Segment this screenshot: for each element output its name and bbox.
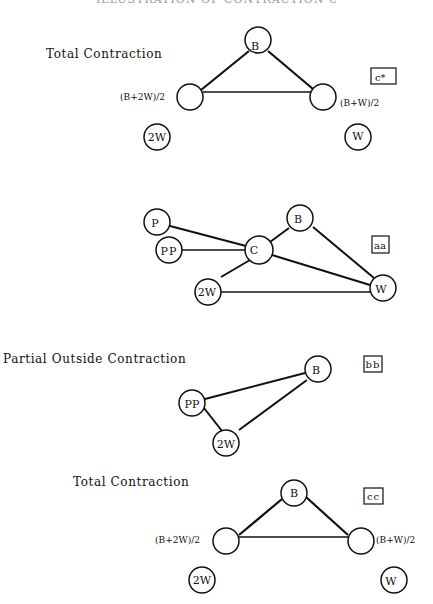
- edge: [201, 51, 249, 90]
- node-label: P: [151, 217, 159, 230]
- edge: [239, 499, 282, 535]
- node-label: PP: [185, 398, 200, 411]
- node-midpoint-right: [310, 84, 336, 110]
- edge: [221, 260, 250, 277]
- node-label: B: [251, 40, 259, 53]
- node-label: PP: [161, 245, 178, 258]
- tag-label: bb: [366, 359, 381, 370]
- side-label-right: (B+W)/2: [376, 535, 415, 545]
- node-label: W: [375, 283, 387, 296]
- section-2: P PP C B W 2W aa: [144, 205, 396, 305]
- tag-label: c*: [375, 72, 386, 83]
- diagram-canvas: Total Contraction B (B+2W)/2 (B+W)/2 c* …: [0, 0, 433, 604]
- edge: [204, 408, 222, 431]
- node-label: C: [250, 244, 258, 257]
- node-label: 2W: [193, 574, 212, 587]
- node-label: W: [352, 130, 364, 143]
- edge: [170, 226, 246, 246]
- node-midpoint-left: [177, 84, 203, 110]
- node-label: 2W: [148, 131, 167, 144]
- section-1: Total Contraction B (B+2W)/2 (B+W)/2 c* …: [46, 27, 396, 150]
- node-label: 2W: [217, 438, 236, 451]
- edge: [306, 497, 348, 535]
- edge: [268, 51, 313, 89]
- edge: [270, 228, 289, 242]
- section-label: Total Contraction: [46, 47, 162, 61]
- side-label-left: (B+2W)/2: [120, 92, 165, 102]
- node-label: W: [385, 575, 397, 588]
- section-3: Partial Outside Contraction B PP 2W bb: [3, 352, 382, 456]
- node-label: B: [290, 487, 298, 500]
- edge: [272, 255, 370, 285]
- tag-label: cc: [367, 491, 380, 502]
- section-4: Total Contraction B (B+2W)/2 (B+W)/2 cc …: [73, 475, 415, 593]
- section-label: Total Contraction: [73, 475, 189, 489]
- node-midpoint-left: [213, 528, 239, 554]
- tag-label: aa: [374, 240, 386, 251]
- section-label: Partial Outside Contraction: [3, 352, 186, 366]
- edge: [205, 373, 305, 399]
- side-label-right: (B+W)/2: [340, 98, 379, 108]
- side-label-left: (B+2W)/2: [155, 535, 200, 545]
- node-midpoint-right: [348, 528, 374, 554]
- node-label: B: [312, 364, 320, 377]
- node-label: B: [294, 213, 302, 226]
- node-label: 2W: [198, 286, 217, 299]
